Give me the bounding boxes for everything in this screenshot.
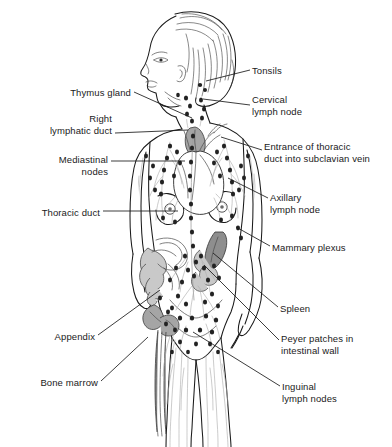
femur-bone [143, 305, 179, 436]
label-axillary-lymph-node: Axillary lymph node [270, 192, 320, 215]
leader-line-cervical-lymph-node [203, 99, 250, 105]
label-bone-marrow: Bone marrow [40, 377, 98, 389]
label-peyer-patches: Peyer patches in intestinal wall [281, 333, 353, 356]
intestines [140, 238, 188, 305]
label-tonsils: Tonsils [252, 65, 282, 77]
label-inguinal-lymph-nodes: Inguinal lymph nodes [282, 381, 337, 404]
label-thoracic-duct: Thoracic duct [42, 207, 100, 219]
leader-line-spleen [213, 253, 278, 307]
leader-line-bone-marrow [101, 337, 148, 381]
label-cervical-lymph-node: Cervical lymph node [252, 94, 302, 117]
heart [174, 151, 224, 214]
label-thymus-gland: Thymus gland [70, 87, 131, 99]
leader-line-right-lymphatic-duct [115, 130, 188, 133]
label-spleen: Spleen [280, 303, 310, 315]
internal-organs [140, 124, 227, 436]
lymphatic-system-figure: .bodyline { fill:none; stroke:#1a1a1a; s… [0, 0, 392, 447]
label-entrance-thoracic-duct: Entrance of thoracic duct into subclavia… [264, 141, 370, 164]
label-mammary-plexus: Mammary plexus [272, 242, 346, 254]
leader-line-entrance-thoracic-duct [221, 137, 262, 150]
label-mediastinal-nodes: Mediastinal nodes [59, 154, 108, 177]
leader-line-thymus-gland [134, 92, 192, 118]
label-right-lymphatic-duct: Right lymphatic duct [50, 113, 112, 136]
label-appendix: Appendix [55, 331, 95, 343]
